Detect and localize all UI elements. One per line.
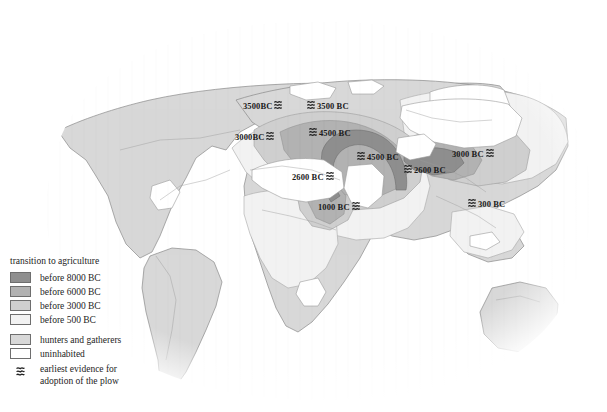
legend-label-hunters-gatherers: hunters and gatherers	[40, 334, 121, 346]
legend-item-plow[interactable]: earliest evidence for adoption of the pl…	[8, 364, 193, 387]
label-2600bc-indus-text: 2600 BC	[414, 165, 446, 175]
legend-label-before-3000bc: before 3000 BC	[40, 300, 101, 312]
plow-icon	[468, 198, 476, 209]
plow-icon	[266, 131, 274, 142]
label-3500bc-northsea-text: 3500 BC	[317, 101, 349, 111]
plow-icon	[486, 148, 494, 159]
legend-title: transition to agriculture	[10, 255, 193, 267]
legend-item-hunters-gatherers[interactable]: hunters and gatherers	[8, 333, 193, 346]
map-figure: 3500BC3500 BC3000BC4500 BC4500 BC3000 BC…	[0, 0, 607, 412]
legend-label-uninhabited: uninhabited	[40, 348, 85, 360]
legend: transition to agriculture before 8000 BC…	[8, 255, 193, 388]
label-4500bc-balkans: 4500 BC	[309, 127, 351, 138]
legend-label-plow-line2: adoption of the plow	[40, 376, 119, 386]
legend-swatch-before-500bc	[10, 314, 31, 325]
legend-item-before-3000bc[interactable]: before 3000 BC	[8, 299, 193, 312]
label-4500bc-levant: 4500 BC	[357, 151, 399, 162]
plow-icon	[10, 364, 31, 378]
legend-label-before-6000bc: before 6000 BC	[40, 286, 101, 298]
label-2600bc-egypt: 2600 BC	[292, 171, 334, 182]
legend-item-before-500bc[interactable]: before 500 BC	[8, 313, 193, 326]
label-2600bc-egypt-text: 2600 BC	[292, 172, 324, 182]
plow-icon	[274, 100, 282, 111]
legend-swatch-before-3000bc	[10, 300, 31, 311]
legend-swatch-before-8000bc	[10, 272, 31, 283]
plow-icon	[309, 127, 317, 138]
legend-item-uninhabited[interactable]: uninhabited	[8, 347, 193, 360]
label-4500bc-balkans-text: 4500 BC	[319, 128, 351, 138]
label-3000bc-iberia: 3000BC	[235, 131, 274, 142]
label-1000bc-nubia: 1000 BC	[318, 201, 360, 212]
label-3000bc-china: 3000 BC	[452, 148, 494, 159]
label-3000bc-china-text: 3000 BC	[452, 149, 484, 159]
legend-label-plow-line1: earliest evidence for	[40, 364, 117, 374]
label-3500bc-britain-text: 3500BC	[243, 101, 272, 111]
label-1000bc-nubia-text: 1000 BC	[318, 202, 350, 212]
plow-icon	[326, 171, 334, 182]
legend-label-before-8000bc: before 8000 BC	[40, 272, 101, 284]
legend-swatch-before-6000bc	[10, 286, 31, 297]
label-3500bc-northsea: 3500 BC	[307, 100, 349, 111]
label-3500bc-britain: 3500BC	[243, 100, 282, 111]
legend-item-before-6000bc[interactable]: before 6000 BC	[8, 285, 193, 298]
plow-icon	[357, 151, 365, 162]
legend-label-plow: earliest evidence for adoption of the pl…	[40, 364, 180, 387]
legend-label-before-500bc: before 500 BC	[40, 314, 96, 326]
label-4500bc-levant-text: 4500 BC	[367, 152, 399, 162]
label-300bc-seasia-text: 300 BC	[478, 199, 505, 209]
label-300bc-seasia: 300 BC	[468, 198, 505, 209]
label-2600bc-indus: 2600 BC	[404, 164, 446, 175]
legend-item-before-8000bc[interactable]: before 8000 BC	[8, 271, 193, 284]
label-3000bc-iberia-text: 3000BC	[235, 132, 264, 142]
plow-icon	[352, 201, 360, 212]
legend-swatch-hunters-gatherers	[10, 334, 31, 345]
plow-icon	[307, 100, 315, 111]
plow-icon	[404, 164, 412, 175]
legend-swatch-uninhabited	[10, 348, 31, 359]
